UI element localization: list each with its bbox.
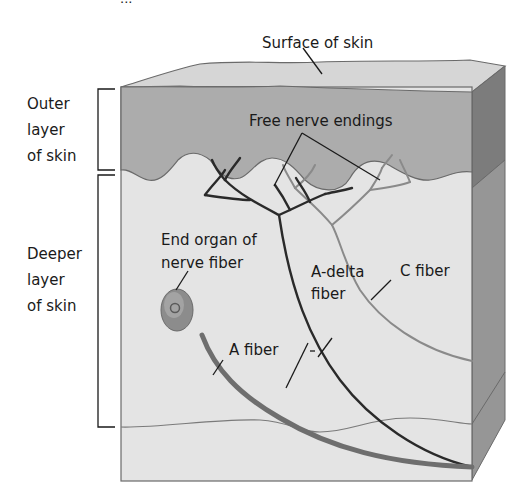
bracket-outer-layer — [98, 89, 115, 170]
bracket-deeper-layer — [98, 175, 115, 427]
label-outer-layer: Outer layer of skin — [27, 95, 76, 165]
label-c-fiber: C fiber — [400, 262, 450, 280]
clipped-header-text: ... — [120, 0, 132, 6]
label-deeper-layer: Deeper layer of skin — [27, 245, 87, 315]
label-free-nerve-endings: Free nerve endings — [249, 112, 393, 130]
skin-side-face-deeper — [472, 160, 505, 480]
label-a-fiber: A fiber — [229, 341, 279, 359]
end-organ-highlight — [164, 292, 184, 318]
skin-nerve-diagram: ... — [0, 0, 524, 503]
label-surface-of-skin: Surface of skin — [262, 34, 373, 52]
